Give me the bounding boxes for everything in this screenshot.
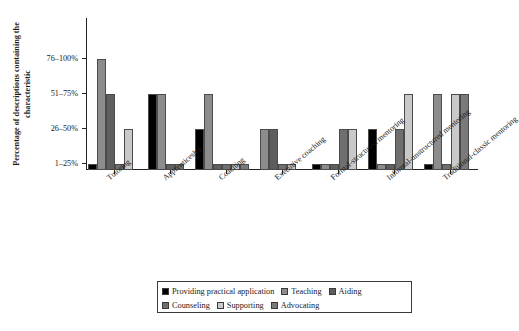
bar <box>377 164 386 170</box>
legend-item: Aiding <box>329 287 362 296</box>
bar <box>312 164 321 170</box>
y-axis-tick <box>82 128 86 129</box>
legend-label: Counseling <box>172 301 210 310</box>
legend-swatch <box>329 288 336 295</box>
bar <box>260 129 269 170</box>
y-axis-line <box>86 18 87 170</box>
y-axis-tick <box>82 58 86 59</box>
legend-swatch <box>281 288 288 295</box>
bar <box>106 94 115 170</box>
bar <box>88 164 97 170</box>
bar <box>424 164 433 170</box>
legend-label: Providing practical application <box>172 287 274 296</box>
y-axis-tick-label: 26–50% <box>30 124 78 133</box>
bar <box>204 94 213 170</box>
legend-item: Supporting <box>217 301 264 310</box>
bar <box>321 164 330 170</box>
legend-item: Counseling <box>162 301 210 310</box>
y-axis-tick-label: 76–100% <box>30 54 78 63</box>
legend-swatch <box>271 302 278 309</box>
chart-legend: Providing practical applicationTeachingA… <box>157 281 412 313</box>
legend-item: Providing practical application <box>162 287 274 296</box>
bar <box>269 129 278 170</box>
legend-swatch <box>162 302 169 309</box>
bar <box>451 94 460 170</box>
y-axis-tick <box>82 93 86 94</box>
legend-label: Aiding <box>339 287 362 296</box>
y-axis-tick-label: 1–25% <box>30 159 78 168</box>
bar <box>97 59 106 170</box>
legend-swatch <box>217 302 224 309</box>
legend-row-2: CounselingSupportingAdvocating <box>162 298 407 312</box>
bar <box>213 164 222 170</box>
y-axis-tick <box>82 163 86 164</box>
legend-label: Advocating <box>281 301 320 310</box>
legend-label: Teaching <box>291 287 321 296</box>
legend-label: Supporting <box>227 301 264 310</box>
legend-item: Teaching <box>281 287 321 296</box>
y-axis-tick-labels: 1–25%26–50%51–75%76–100% <box>30 0 80 180</box>
legend-row-1: Providing practical applicationTeachingA… <box>162 284 407 298</box>
legend-item: Advocating <box>271 301 320 310</box>
legend-swatch <box>162 288 169 295</box>
bar <box>157 94 166 170</box>
y-axis-tick-label: 51–75% <box>30 89 78 98</box>
bar <box>148 94 157 170</box>
